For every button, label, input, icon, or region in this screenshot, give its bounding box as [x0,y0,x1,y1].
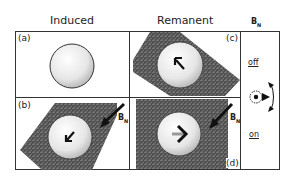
side-label-on: on [249,130,259,139]
diagram-graphics [0,0,293,179]
arrow-b-sub: N [124,118,128,124]
field-rotation-symbol [250,82,274,112]
arrow-label-d: BN [230,113,240,124]
panel-label-a: (a) [18,33,31,43]
arrow-d-sub: N [236,118,240,124]
panel-a-sphere [50,44,94,88]
panel-label-c: (c) [226,33,238,43]
arrow-label-b: BN [118,113,128,124]
side-label-off: off [248,58,258,67]
panel-label-b: (b) [18,100,31,110]
panel-label-d: (d) [226,158,239,168]
